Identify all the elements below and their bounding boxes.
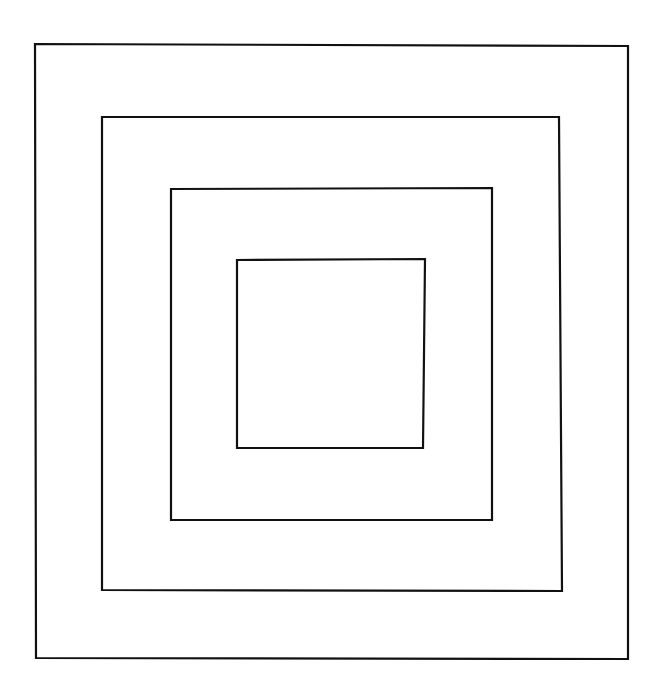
- inner-square: [237, 259, 425, 448]
- concentric-squares-drawing: [0, 0, 662, 693]
- third-square: [171, 188, 492, 520]
- diagram-canvas: Four concentric hand-drawn squares: [0, 0, 662, 693]
- outer-square: [35, 44, 628, 659]
